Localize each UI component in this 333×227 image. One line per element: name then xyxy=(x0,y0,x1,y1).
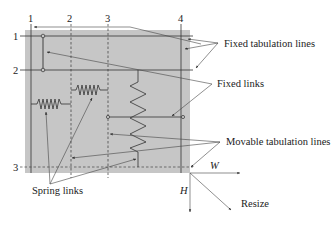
layout-panel xyxy=(25,30,190,173)
resize-arrows xyxy=(190,173,240,212)
label-resize: Resize xyxy=(241,198,269,209)
column-label-2: 2 xyxy=(67,13,72,24)
label-fixed-links: Fixed links xyxy=(217,78,264,89)
column-label-3: 3 xyxy=(105,13,110,24)
label-width: W xyxy=(210,160,220,171)
label-movable-tabulation-lines: Movable tabulation lines xyxy=(226,136,330,147)
column-label-4: 4 xyxy=(178,13,184,24)
label-fixed-tabulation-lines: Fixed tabulation lines xyxy=(224,38,315,49)
row-label-2: 2 xyxy=(13,65,18,76)
label-height: H xyxy=(179,185,189,196)
label-spring-links: Spring links xyxy=(32,185,83,196)
layout-diagram: 1 2 3 4 1 2 3 Fixed tabulation lines Fix… xyxy=(0,0,333,227)
row-label-3: 3 xyxy=(13,162,18,173)
row-label-1: 1 xyxy=(13,31,18,42)
column-label-1: 1 xyxy=(28,13,33,24)
